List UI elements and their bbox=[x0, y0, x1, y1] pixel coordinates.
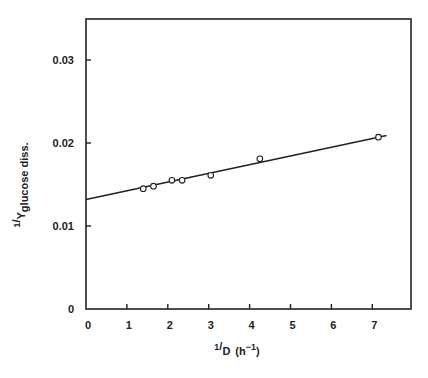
data-point bbox=[208, 173, 214, 179]
x-tick-label: 1 bbox=[126, 319, 132, 331]
y-tick-label: 0 bbox=[68, 303, 74, 315]
x-tick-label: 0 bbox=[85, 319, 91, 331]
data-point bbox=[140, 186, 146, 192]
y-label-sub: glucose diss. bbox=[18, 142, 30, 212]
y-axis-label: 1/Yglucose diss. bbox=[10, 142, 30, 227]
data-point bbox=[151, 183, 157, 189]
plot-frame bbox=[86, 19, 411, 309]
data-point bbox=[169, 178, 175, 184]
x-tick-label: 2 bbox=[167, 319, 173, 331]
chart: 01234567 00.010.020.03 1/D(h−1) 1/Ygluco… bbox=[0, 0, 428, 378]
y-tick-label: 0.02 bbox=[53, 137, 74, 149]
data-point bbox=[257, 156, 263, 162]
x-label-close: ) bbox=[256, 345, 260, 357]
y-tick-label: 0.03 bbox=[53, 54, 74, 66]
data-point bbox=[376, 134, 382, 140]
data-point bbox=[179, 178, 185, 184]
x-label-den: D bbox=[222, 345, 230, 357]
x-tick-label: 3 bbox=[208, 319, 214, 331]
x-axis-label: 1/D(h−1) bbox=[214, 340, 260, 357]
x-tick-label: 5 bbox=[289, 319, 295, 331]
x-tick-label: 7 bbox=[371, 319, 377, 331]
x-tick-label: 6 bbox=[330, 319, 336, 331]
x-axis-ticks: 01234567 bbox=[85, 304, 377, 331]
fit-line bbox=[86, 136, 387, 200]
x-label-exp: −1 bbox=[246, 342, 256, 352]
x-label-unit: (h bbox=[235, 345, 246, 357]
x-tick-label: 4 bbox=[249, 319, 256, 331]
y-tick-label: 0.01 bbox=[53, 220, 74, 232]
